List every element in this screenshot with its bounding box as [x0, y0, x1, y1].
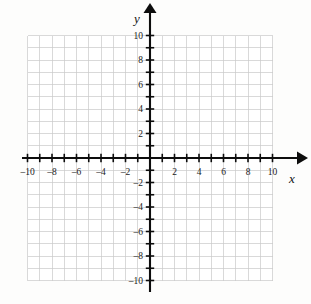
x-tick-label: –6	[71, 167, 82, 177]
y-axis-label: y	[132, 11, 140, 26]
y-tick-label: –8	[133, 251, 144, 261]
x-axis-arrowhead-icon	[297, 152, 308, 165]
y-tick-label: 8	[138, 55, 143, 65]
y-axis-arrowhead-icon	[144, 3, 157, 13]
cartesian-plane: –10–8–6–4–2246810 108642–2–4–6–8–10 x y	[0, 0, 311, 304]
coordinate-grid-figure: –10–8–6–4–2246810 108642–2–4–6–8–10 x y	[0, 0, 311, 304]
y-tick-label: –10	[128, 276, 144, 286]
y-tick-label: –6	[133, 227, 144, 237]
x-tick-label: 10	[268, 167, 278, 177]
x-tick-label: 6	[221, 167, 226, 177]
y-tick-label: 10	[134, 31, 144, 41]
y-tick-label: –2	[133, 178, 144, 188]
x-tick-label: –10	[19, 167, 35, 177]
x-tick-label: –8	[46, 167, 57, 177]
x-tick-label: –4	[95, 167, 106, 177]
x-axis-label: x	[288, 171, 295, 186]
y-tick-label: 4	[138, 104, 143, 114]
x-tick-label: 8	[246, 167, 251, 177]
x-tick-label: 4	[197, 167, 202, 177]
y-tick-label: 2	[138, 129, 143, 139]
x-tick-label: –2	[120, 167, 131, 177]
y-tick-label: 6	[138, 80, 143, 90]
y-tick-label: –4	[133, 202, 144, 212]
x-tick-label: 2	[172, 167, 177, 177]
